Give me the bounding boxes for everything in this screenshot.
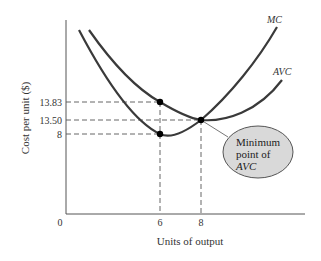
callout-line-3: AVC <box>235 160 257 172</box>
y-axis-label: Cost per unit ($) <box>19 81 32 154</box>
callout-leader <box>201 120 228 137</box>
reference-lines <box>66 102 201 214</box>
xtick-8: 8 <box>199 217 204 228</box>
callout-line-1: Minimum <box>236 136 280 148</box>
callout-line-2: point of <box>236 148 271 160</box>
point-avc-6 <box>157 99 163 105</box>
ytick-8: 8 <box>57 129 62 140</box>
ytick-13-83: 13.83 <box>40 97 63 108</box>
x-axis-label: Units of output <box>157 235 224 247</box>
point-mc-6 <box>157 131 163 137</box>
xtick-origin: 0 <box>58 217 63 228</box>
ytick-13-50: 13.50 <box>40 115 63 126</box>
cost-curves-chart: Minimum point of AVC MC AVC 13.83 13.50 … <box>0 0 321 261</box>
avc-curve <box>89 30 282 120</box>
mc-label: MC <box>266 14 282 25</box>
xtick-6: 6 <box>158 217 163 228</box>
mc-curve <box>79 27 277 136</box>
point-min-avc <box>198 117 204 123</box>
avc-label: AVC <box>272 66 292 77</box>
